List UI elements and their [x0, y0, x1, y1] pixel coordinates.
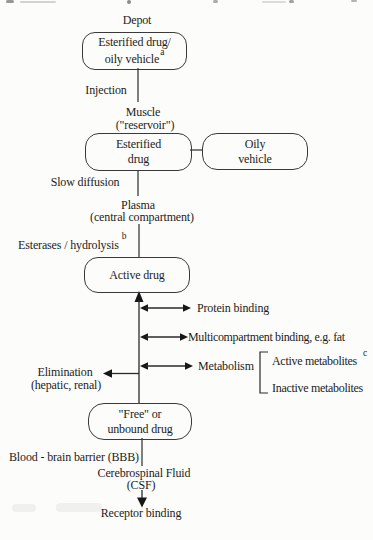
free-drug-line2: unbound drug [107, 422, 172, 437]
oily-vehicle-box: Oily vehicle [202, 133, 308, 170]
multicompartment-binding-label: Multicompartment binding, e.g. fat [188, 331, 345, 344]
reservoir-label: ("reservoir") [116, 119, 174, 132]
central-compartment-label: (central compartment) [90, 211, 194, 224]
scanned-diagram-page: Depot Injection Muscle ("reservoir") Slo… [0, 0, 373, 540]
active-drug-text: Active drug [109, 268, 164, 283]
footnote-c: c [363, 348, 367, 358]
free-drug-box: "Free" or unbound drug [88, 403, 192, 440]
active-metabolites-label: Active metabolitesc [272, 352, 367, 368]
blood-brain-barrier-label: Blood - brain barrier (BBB) [9, 451, 139, 464]
protein-binding-label: Protein binding [197, 302, 269, 315]
depot-label: Depot [123, 14, 152, 27]
csf-abbr-label: (CSF) [127, 479, 156, 492]
depot-box: Esterified drug/ oily vehiclea [82, 32, 187, 70]
arrow-protein-binding [140, 304, 191, 312]
elimination-detail-label: (hepatic, renal) [31, 379, 101, 392]
esterified-drug-line1: Esterified [116, 137, 161, 152]
esterified-drug-line2: drug [128, 152, 149, 167]
metabolites-bracket [260, 352, 268, 393]
arrow-multicompartment [140, 333, 188, 341]
injection-label: Injection [85, 84, 126, 97]
active-metabolites-text: Active metabolites [272, 354, 357, 368]
footnote-a: a [160, 47, 164, 57]
slow-diffusion-label: Slow diffusion [51, 176, 120, 189]
oily-vehicle-line2: vehicle [238, 152, 272, 167]
esterified-drug-box: Esterified drug [85, 133, 192, 171]
oily-vehicle-line1: Oily [245, 137, 266, 152]
esterases-hydrolysis-label: Esterases / hydrolysisb [18, 236, 126, 252]
footnote-b: b [122, 231, 127, 241]
arrow-elimination [103, 369, 139, 377]
arrow-metabolism [140, 362, 193, 370]
receptor-binding-label: Receptor binding [101, 507, 182, 520]
active-drug-box: Active drug [84, 257, 190, 293]
arrow-to-receptor-binding [137, 490, 147, 508]
metabolism-label: Metabolism [198, 360, 254, 373]
inactive-metabolites-label: Inactive metabolites [272, 382, 363, 395]
free-drug-line1: "Free" or [119, 407, 162, 422]
depot-box-line2: oily vehiclea [105, 50, 165, 67]
esterases-hydrolysis-text: Esterases / hydrolysis [18, 238, 119, 252]
